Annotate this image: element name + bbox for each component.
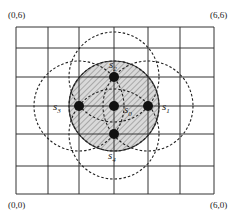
node-label-s1: s1 — [162, 100, 170, 115]
coverage-diagram: s0s1s2s3s4 — [0, 0, 245, 223]
corner-label-bottom-left: (0,0) — [8, 200, 25, 210]
sensor-node-s2 — [109, 72, 119, 82]
sensor-node-s1 — [143, 101, 153, 111]
corner-label-top-left: (0,6) — [8, 10, 25, 20]
sensor-node-s4 — [109, 129, 119, 139]
node-label-s3: s3 — [53, 100, 61, 115]
corner-label-bottom-right: (6,0) — [210, 200, 227, 210]
sensor-node-s0 — [109, 101, 119, 111]
corner-label-top-right: (6,6) — [210, 10, 227, 20]
sensor-node-s3 — [74, 101, 84, 111]
